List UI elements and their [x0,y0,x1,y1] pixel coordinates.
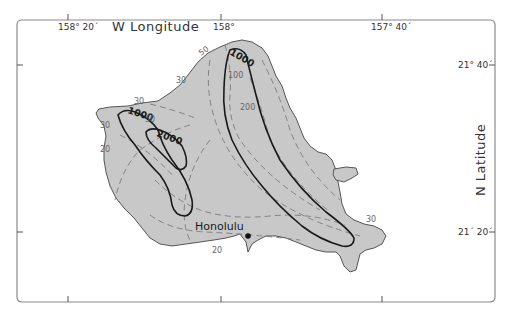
lon-label-3: 157° 40´ [371,22,412,32]
honolulu-label: Honolulu [195,220,244,233]
lon-label-2: 158° [213,22,235,32]
latitude-axis-title: N Latitude [473,124,488,196]
contour-label-20-westcoast: 20 [100,145,110,154]
longitude-axis-title: W Longitude [112,19,199,34]
contour-label-50-west: 50 [145,115,155,124]
contour-label-30-north: 30 [176,76,186,85]
contour-label-30-westcoast: 30 [100,121,110,130]
mokapu-islet [333,167,358,182]
contour-label-100: 100 [228,71,243,80]
contour-label-200: 200 [240,103,255,112]
contour-label-30-east: 30 [366,215,376,224]
contour-label-30-west: 30 [134,97,144,106]
contour-label-20-south: 20 [212,246,222,255]
rainfall-contour-map: 158° 20´ W Longitude 158° 157° 40´ 21° 4… [0,0,507,318]
lat-label-1: 21° 40´ [458,60,493,70]
lon-label-1: 158° 20´ [58,22,99,32]
lat-label-2: 21´ 20´ [458,227,493,237]
honolulu-marker [245,233,251,239]
